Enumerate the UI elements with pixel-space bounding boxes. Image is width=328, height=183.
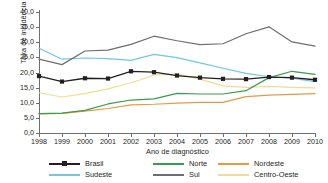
- data-point-marker: [152, 70, 156, 74]
- data-point-marker: [129, 69, 133, 73]
- data-point-marker: [37, 74, 41, 78]
- data-point-marker: [106, 76, 110, 80]
- legend-label: Norte: [189, 158, 207, 169]
- legend-label: Sudeste: [85, 169, 112, 180]
- data-point-marker: [83, 76, 87, 80]
- data-point-marker: [244, 77, 248, 81]
- data-point-marker: [290, 76, 294, 80]
- legend-marker-icon: [62, 161, 67, 166]
- legend-swatch-icon: [218, 174, 249, 176]
- legend-swatch-icon: [153, 163, 184, 165]
- legend-label: Brasil: [85, 158, 103, 169]
- legend-swatch-icon: [49, 174, 80, 176]
- data-point-marker: [60, 79, 64, 83]
- data-point-marker: [313, 78, 317, 82]
- data-point-marker: [267, 75, 271, 79]
- chart-legend: BrasilSudesteNorteSulNordesteCentro-Oest…: [0, 158, 320, 183]
- legend-label: Sul: [189, 169, 200, 180]
- legend-swatch-icon: [218, 163, 249, 165]
- legend-label: Centro-Oeste: [254, 169, 298, 180]
- series-line-sul: [39, 27, 315, 65]
- legend-swatch-icon: [153, 174, 184, 176]
- legend-label: Nordeste: [254, 158, 284, 169]
- data-point-marker: [198, 76, 202, 80]
- data-point-marker: [221, 77, 225, 81]
- data-point-marker: [175, 73, 179, 77]
